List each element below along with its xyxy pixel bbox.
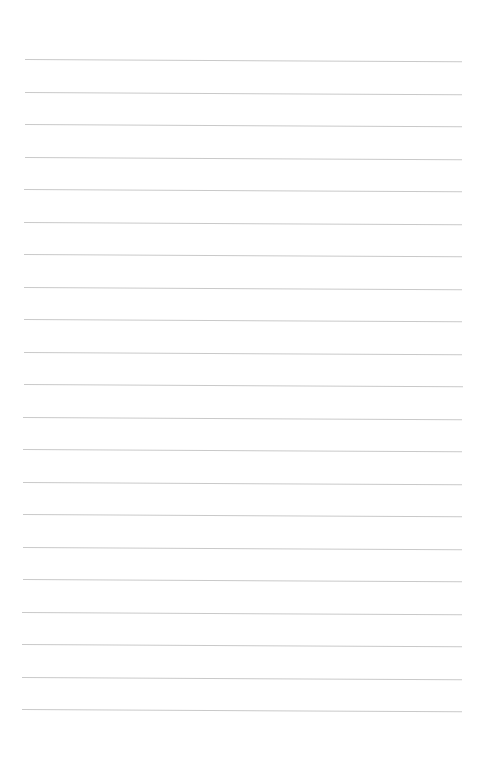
ruled-line: [22, 644, 462, 647]
ruled-line: [22, 709, 462, 712]
ruled-line: [24, 189, 462, 192]
ruled-page: [0, 0, 483, 767]
ruled-line: [24, 254, 462, 257]
ruled-line: [24, 352, 462, 355]
ruled-line: [25, 92, 462, 95]
ruled-line: [25, 157, 462, 160]
ruled-line: [23, 449, 462, 452]
ruled-line: [23, 417, 462, 420]
ruled-line: [22, 677, 462, 680]
ruled-line: [24, 287, 462, 290]
ruled-line: [24, 319, 462, 322]
ruled-line: [24, 222, 462, 225]
ruled-line: [23, 482, 462, 485]
ruled-line: [25, 59, 462, 62]
ruled-line: [25, 124, 462, 127]
ruled-line: [23, 579, 462, 582]
ruled-line: [23, 384, 461, 387]
ruled-line: [22, 612, 462, 615]
ruled-line: [23, 514, 462, 517]
ruled-line: [23, 547, 462, 550]
